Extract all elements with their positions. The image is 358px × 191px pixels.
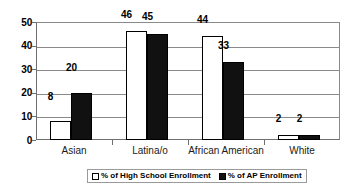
value-label-white-ap: 2: [289, 114, 310, 124]
y-tick-label-40: 40: [6, 41, 32, 51]
bar-chart: 50 40 30 20 10 0 8 20 46 45 44 33 2: [0, 0, 358, 191]
y-tick-label-50: 50: [6, 18, 32, 28]
category-label-african-american: African American: [188, 145, 264, 156]
y-tick-mark-0: [32, 140, 36, 141]
y-tick-label-0: 0: [6, 136, 32, 146]
legend-swatch-filled-icon: [219, 173, 226, 180]
y-tick-label-30: 30: [6, 65, 32, 75]
y-tick-label-10: 10: [6, 112, 32, 122]
legend: % of High School Enrollment % of AP Enro…: [87, 169, 307, 183]
value-label-latina-o-ap: 45: [137, 12, 158, 22]
bar-african-american-ap: [223, 62, 244, 140]
bar-african-american-high-school: [202, 36, 223, 140]
value-label-white-high-school: 2: [268, 114, 289, 124]
bar-latina-o-high-school: [126, 31, 147, 140]
category-label-asian: Asian: [36, 145, 112, 156]
value-label-african-american-high-school: 44: [192, 15, 213, 25]
value-label-asian-ap: 20: [61, 63, 82, 73]
value-label-african-american-ap: 33: [213, 41, 234, 51]
bar-white-ap: [299, 135, 320, 140]
category-label-white: White: [264, 145, 340, 156]
bar-latina-o-ap: [147, 34, 168, 140]
bar-asian-ap: [71, 93, 92, 140]
value-label-asian-high-school: 8: [40, 92, 61, 102]
legend-entry-high-school-enrollment[interactable]: % of High School Enrollment: [92, 172, 211, 180]
legend-label-ap-enrollment: % of AP Enrollment: [228, 172, 302, 180]
bar-asian-high-school: [50, 121, 71, 140]
legend-swatch-hollow-icon: [92, 173, 99, 180]
y-axis: 50 40 30 20 10 0: [0, 0, 32, 191]
legend-entry-ap-enrollment[interactable]: % of AP Enrollment: [219, 172, 302, 180]
bar-white-high-school: [278, 135, 299, 140]
category-label-latina-o: Latina/o: [112, 145, 188, 156]
y-tick-label-20: 20: [6, 88, 32, 98]
value-label-latina-o-high-school: 46: [116, 10, 137, 20]
legend-label-high-school-enrollment: % of High School Enrollment: [101, 172, 211, 180]
